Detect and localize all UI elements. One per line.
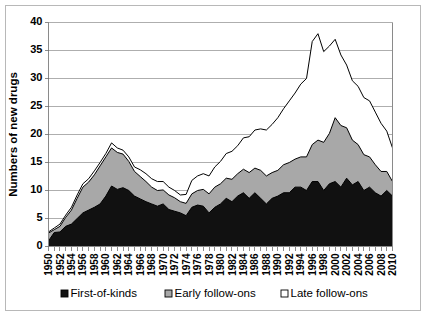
x-tick-label-1958: 1958 — [89, 253, 100, 276]
chart-legend: First-of-kindsEarly follow-onsLate follo… — [61, 287, 368, 299]
x-tick-label-1978: 1978 — [204, 253, 215, 276]
y-tick-label-20: 20 — [30, 127, 42, 139]
y-tick-label-25: 25 — [30, 99, 42, 111]
x-tick-label-1962: 1962 — [112, 253, 123, 276]
x-axis-ticks — [49, 247, 393, 251]
legend-swatch-empty-square — [281, 290, 288, 297]
x-tick-label-1994: 1994 — [295, 253, 306, 276]
legend-item-first-of-kinds[interactable]: First-of-kinds — [61, 287, 137, 299]
x-tick-label-1960: 1960 — [100, 253, 111, 276]
x-tick-label-1986: 1986 — [250, 253, 261, 276]
stacked-area-chart: 0510152025303540 19501952195419561958196… — [0, 0, 426, 316]
y-tick-label-35: 35 — [30, 43, 42, 55]
legend-label-text: Early follow-ons — [175, 287, 256, 299]
x-tick-label-1950: 1950 — [43, 253, 54, 276]
y-tick-label-15: 15 — [30, 155, 42, 167]
y-tick-label-30: 30 — [30, 71, 42, 83]
x-tick-label-1954: 1954 — [66, 253, 77, 276]
x-tick-label-1984: 1984 — [238, 253, 249, 276]
y-axis-title: Numbers of new drugs — [7, 72, 19, 197]
x-tick-label-1998: 1998 — [318, 253, 329, 276]
legend-item-late-follow-ons[interactable]: Late follow-ons — [281, 287, 368, 299]
x-tick-label-1996: 1996 — [307, 253, 318, 276]
area-series-group — [49, 34, 393, 247]
x-tick-label-1990: 1990 — [272, 253, 283, 276]
y-axis-tick-labels: 0510152025303540 — [30, 15, 48, 251]
x-tick-label-2010: 2010 — [387, 253, 398, 276]
x-tick-label-1964: 1964 — [123, 253, 134, 276]
x-tick-label-1982: 1982 — [227, 253, 238, 276]
y-tick-label-10: 10 — [30, 183, 42, 195]
y-tick-label-0: 0 — [36, 239, 42, 251]
x-tick-label-1976: 1976 — [192, 253, 203, 276]
x-tick-label-1970: 1970 — [158, 253, 169, 276]
legend-swatch-gray-square — [165, 290, 172, 297]
y-tick-label-40: 40 — [30, 15, 42, 27]
x-tick-label-2000: 2000 — [330, 253, 341, 276]
x-tick-label-2004: 2004 — [353, 253, 364, 276]
x-tick-label-1972: 1972 — [169, 253, 180, 276]
legend-label-text: Late follow-ons — [291, 287, 369, 299]
x-tick-label-1966: 1966 — [135, 253, 146, 276]
x-tick-label-1980: 1980 — [215, 253, 226, 276]
y-tick-label-5: 5 — [36, 211, 42, 223]
x-tick-label-1974: 1974 — [181, 253, 192, 276]
x-tick-label-1956: 1956 — [78, 253, 89, 276]
x-tick-label-2002: 2002 — [341, 253, 352, 276]
x-tick-label-1952: 1952 — [55, 253, 66, 276]
x-tick-label-1968: 1968 — [146, 253, 157, 276]
legend-item-early-follow-ons[interactable]: Early follow-ons — [165, 287, 256, 299]
x-axis-tick-labels: 1950195219541956195819601962196419661968… — [43, 253, 398, 276]
chart-container: 0510152025303540 19501952195419561958196… — [0, 0, 426, 316]
x-tick-label-1992: 1992 — [284, 253, 295, 276]
y-axis-title-text: Numbers of new drugs — [7, 72, 19, 197]
x-tick-label-2008: 2008 — [376, 253, 387, 276]
legend-label-text: First-of-kinds — [71, 287, 138, 299]
legend-swatch-filled-square — [61, 290, 68, 297]
x-tick-label-1988: 1988 — [261, 253, 272, 276]
x-tick-label-2006: 2006 — [364, 253, 375, 276]
